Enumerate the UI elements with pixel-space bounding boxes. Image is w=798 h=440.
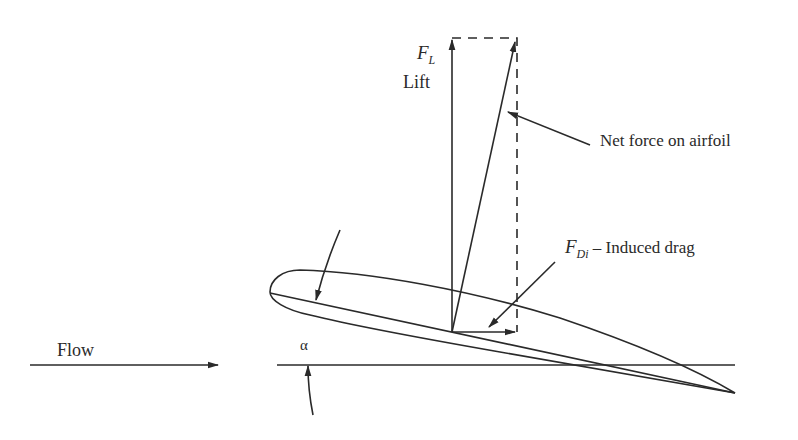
induced-drag-label: FDi – Induced drag	[565, 236, 695, 258]
airfoil-diagram	[0, 0, 798, 440]
induced-drag-leader	[489, 262, 555, 327]
net-force-label: Net force on airfoil	[600, 131, 731, 151]
angle-arrow-lower	[308, 366, 313, 415]
flow-label: Flow	[57, 340, 94, 361]
net-force-leader	[508, 112, 590, 145]
lift-label: Lift	[403, 72, 430, 93]
lift-symbol: FL	[417, 42, 435, 64]
chord-line	[270, 293, 735, 393]
net-force-vector	[452, 42, 515, 332]
angle-arrow-upper	[316, 230, 340, 300]
angle-of-attack-label: α	[300, 337, 308, 354]
